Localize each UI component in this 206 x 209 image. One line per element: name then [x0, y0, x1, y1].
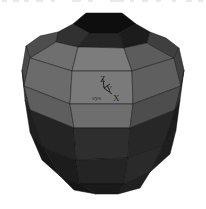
- facet-bottom-center: [76, 158, 128, 184]
- polyhedron-render[interactable]: [0, 0, 206, 209]
- facet-lmid-center: [70, 104, 133, 128]
- axis-label-z: Z: [100, 75, 106, 84]
- facet-umid-center: [72, 47, 132, 71]
- 3d-viewport[interactable]: Z Y X sys: [0, 0, 206, 209]
- coordinate-system-label: sys: [92, 95, 101, 102]
- axis-label-y: Y: [106, 85, 113, 94]
- facet-lower-center: [74, 128, 130, 160]
- axis-label-x: X: [113, 94, 120, 103]
